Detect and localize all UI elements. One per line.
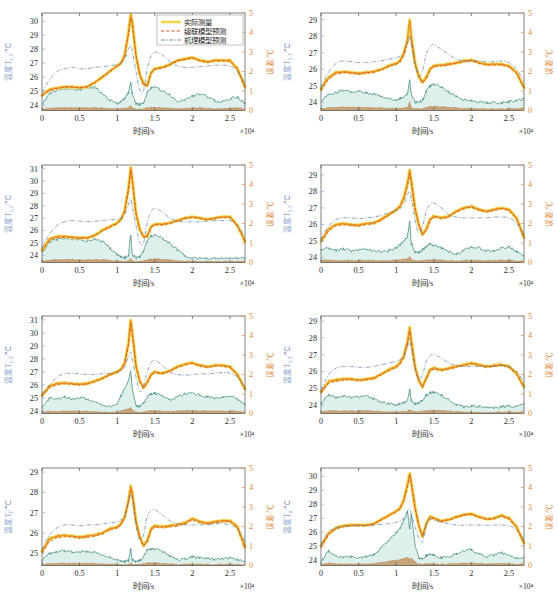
right-y-tick-label: 3 [249,199,253,208]
x-tick-label: 0.5 [74,417,84,426]
y-tick-label: 26 [309,220,317,229]
y-tick-label: 27 [309,351,317,360]
right-y-tick-label: 4 [528,331,532,340]
y-tick-label: 27 [30,59,38,68]
plot-svg: 24252627282901234500.511.522.5时间/s×10⁴温度… [279,0,558,152]
y-tick-label: 26 [30,381,38,390]
x-tick-label: 2.5 [504,114,514,123]
y-tick-label: 26 [30,73,38,82]
plot-svg: 242526272829303101234500.511.522.5时间/s×1… [0,303,279,455]
y-axis-label: 温度Th,2/℃ [282,194,293,233]
x-tick-label: 0 [319,569,323,578]
x-tick-label: 0 [40,266,44,275]
plot-svg: 242526272829303101234500.511.522.5时间/s×1… [0,152,279,304]
right-y-tick-label: 1 [249,87,253,96]
y-axis-label-text: 温度Th,1/℃ [282,42,293,81]
y-tick-label: 31 [30,316,38,325]
right-y-tick-label: 1 [528,390,532,399]
right-y-tick-label: 2 [249,522,253,531]
x-axis-label: 时间/s [412,277,434,287]
x-axis-exponent: ×10⁴ [240,581,255,590]
y-tick-label: 28 [30,45,38,54]
right-y-axis-label-text: 误差/℃ [544,49,554,75]
right-y-axis-label-text: 误差/℃ [265,200,275,226]
y-tick-label: 27 [30,213,38,222]
right-y-tick-label: 4 [249,28,253,37]
x-tick-label: 1.5 [150,114,160,123]
x-tick-label: 1 [394,114,398,123]
y-axis-label: 温度Tc,3/℃ [3,346,14,384]
right-y-tick-label: 4 [249,483,253,492]
plot-svg: 2425262728293001234500.511.522.5时间/s×10⁴… [279,455,558,606]
x-tick-label: 1 [394,569,398,578]
y-tick-label: 28 [30,201,38,210]
y-tick-label: 29 [30,189,38,198]
subplot-row1-right: 24252627282901234500.511.522.5时间/s×10⁴温度… [279,0,558,152]
subplot-row4-right: 2425262728293001234500.511.522.5时间/s×10⁴… [279,455,558,606]
y-tick-label: 25 [30,238,38,247]
y-axis-label-text: 温度Tc,1/℃ [3,43,14,81]
y-tick-label: 28 [309,500,317,509]
y-tick-label: 24 [309,253,317,262]
right-y-tick-label: 4 [528,180,532,189]
x-tick-label: 1.5 [429,417,439,426]
right-y-tick-label: 4 [249,331,253,340]
x-tick-label: 2 [190,114,194,123]
right-y-tick-label: 5 [249,160,253,169]
y-tick-label: 24 [309,401,317,410]
subplot-row3-left: 242526272829303101234500.511.522.5时间/s×1… [0,303,279,455]
y-axis-label-text: 温度Tc,2/℃ [3,194,14,232]
right-y-tick-label: 0 [249,409,253,418]
subplot-row4-left: 252627282901234500.511.522.5时间/s×10⁴温度Tf… [0,455,279,606]
y-axis-label: 温度Tf/℃ [3,499,14,533]
x-tick-label: 1 [115,266,119,275]
y-tick-label: 30 [30,17,38,26]
right-y-tick-label: 0 [528,561,532,570]
right-y-tick-label: 1 [528,87,532,96]
x-tick-label: 1 [394,417,398,426]
y-axis-label: 温度Th,3/℃ [282,345,293,384]
right-y-tick-label: 3 [249,502,253,511]
right-y-tick-label: 0 [528,106,532,115]
subplot-row1-left: 2425262728293001234500.511.522.5时间/s×10⁴… [0,0,279,152]
right-y-tick-label: 0 [528,409,532,418]
y-tick-label: 25 [30,549,38,558]
y-tick-label: 26 [309,367,317,376]
y-tick-label: 30 [30,329,38,338]
x-tick-label: 2 [469,114,473,123]
right-y-tick-label: 3 [528,48,532,57]
right-y-tick-label: 5 [528,9,532,18]
right-y-axis-label-text: 误差/℃ [544,503,554,529]
x-axis-label: 时间/s [133,429,155,439]
right-y-axis-label: 误差/℃ [544,503,554,529]
x-tick-label: 1.5 [429,266,439,275]
right-y-axis-label-text: 误差/℃ [544,200,554,226]
y-tick-label: 29 [309,486,317,495]
y-tick-label: 28 [30,488,38,497]
y-tick-label: 24 [30,101,38,110]
x-axis-exponent: ×10⁴ [519,581,534,590]
plot-background [42,468,245,566]
y-tick-label: 26 [309,527,317,536]
legend-label-3: 机理模型预测 [184,36,226,45]
x-tick-label: 1.5 [150,417,160,426]
right-y-tick-label: 4 [528,483,532,492]
y-tick-label: 26 [30,226,38,235]
right-y-tick-label: 0 [249,561,253,570]
right-y-tick-label: 5 [249,312,253,321]
subplot-row2-left: 242526272829303101234500.511.522.5时间/s×1… [0,152,279,304]
y-tick-label: 27 [30,368,38,377]
x-tick-label: 2 [469,569,473,578]
right-y-axis-label: 误差/℃ [265,49,275,75]
x-tick-label: 2.5 [225,114,235,123]
x-tick-label: 2 [190,569,194,578]
x-tick-label: 0.5 [353,266,363,275]
y-axis-label-text: 温度To/℃ [282,499,293,533]
subplot-row3-right: 24252627282901234500.511.522.5时间/s×10⁴温度… [279,303,558,455]
x-tick-label: 0.5 [74,266,84,275]
right-y-tick-label: 2 [528,219,532,228]
x-tick-label: 2.5 [225,266,235,275]
right-y-tick-label: 1 [249,238,253,247]
y-tick-label: 28 [309,32,317,41]
right-y-axis-label-text: 误差/℃ [544,352,554,378]
